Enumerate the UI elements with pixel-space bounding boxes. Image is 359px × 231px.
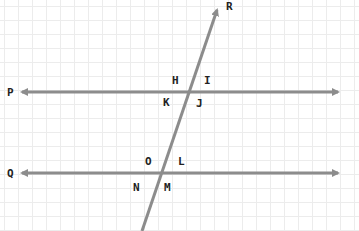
angle-label-m: M <box>164 181 171 194</box>
angle-label-h: H <box>172 74 179 87</box>
transversal-r <box>142 10 217 231</box>
label-r: R <box>226 0 233 13</box>
label-p: P <box>7 86 14 99</box>
angle-label-k: K <box>163 96 170 109</box>
label-q: Q <box>7 167 14 180</box>
angle-label-o: O <box>145 155 152 168</box>
angle-label-l: L <box>178 155 185 168</box>
angle-label-n: N <box>133 181 140 194</box>
parallel-lines-diagram: P Q R H I K J O L N M <box>0 0 359 231</box>
angle-label-i: I <box>204 74 211 87</box>
angle-label-j: J <box>196 97 203 110</box>
